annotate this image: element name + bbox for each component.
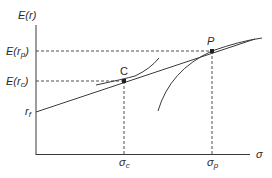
point-c-label: C: [120, 65, 128, 77]
y-axis-title: E(r): [18, 9, 37, 21]
efficient-frontier-curve: [158, 38, 262, 111]
sigma-p-tick-label: σp: [207, 156, 219, 170]
capital-allocation-line: [36, 39, 255, 112]
point-c-marker: [122, 79, 126, 83]
x-axis-title: σ: [256, 148, 263, 160]
sigma-c-tick-label: σc: [119, 156, 130, 170]
diagram-canvas: C P E(r) E(rp) E(rc) rf σc σp σ: [0, 0, 272, 178]
rf-tick-label: rf: [25, 105, 32, 119]
point-p-label: P: [207, 35, 215, 47]
point-p-marker: [210, 49, 214, 53]
erp-tick-label: E(rp): [6, 45, 29, 59]
erc-tick-label: E(rc): [6, 75, 29, 89]
